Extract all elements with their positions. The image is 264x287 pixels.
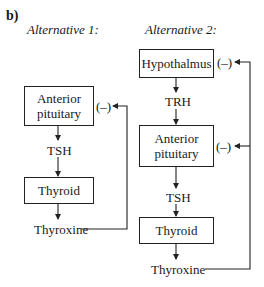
anterior-pituitary-label-2-line2: pituitary xyxy=(154,146,198,161)
inhibition-sign-pituitary-2: (–) xyxy=(216,139,231,154)
anterior-pituitary-label-line1: Anterior xyxy=(37,91,81,106)
anterior-pituitary-label-line2: pituitary xyxy=(37,106,81,121)
alternative-2-title: Alternative 2: xyxy=(145,22,217,38)
inhibition-sign-hypothalamus: (–) xyxy=(217,55,232,70)
anterior-pituitary-box-2: Anterior pituitary xyxy=(139,125,214,167)
thyroxine-label-2: Thyroxine xyxy=(151,262,205,277)
thyroid-box-1: Thyroid xyxy=(24,177,94,204)
anterior-pituitary-box-1: Anterior pituitary xyxy=(24,86,94,126)
thyroid-label-2: Thyroid xyxy=(156,223,198,238)
hypothalamus-box: Hypothalmus xyxy=(139,49,214,78)
figure-label: b) xyxy=(6,8,18,24)
thyroid-box-2: Thyroid xyxy=(139,217,214,244)
inhibition-sign-pituitary-1: (–) xyxy=(96,99,111,114)
anterior-pituitary-label-2-line1: Anterior xyxy=(154,131,198,146)
hypothalamus-label: Hypothalmus xyxy=(141,56,211,71)
thyroid-label-1: Thyroid xyxy=(38,183,80,198)
alternative-1-title: Alternative 1: xyxy=(27,22,99,38)
thyroxine-label-1: Thyroxine xyxy=(34,222,88,237)
tsh-label-1: TSH xyxy=(47,143,72,158)
tsh-label-2: TSH xyxy=(166,190,191,205)
trh-label: TRH xyxy=(165,94,191,109)
